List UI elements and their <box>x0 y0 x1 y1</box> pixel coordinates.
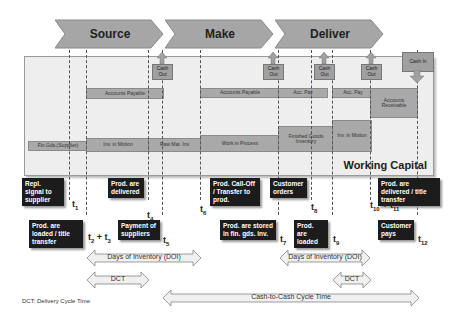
phase-source: Source <box>55 18 165 50</box>
phase-make: Make <box>165 18 275 50</box>
cash-out-box: Cash Out <box>314 64 335 80</box>
cash-out-box: Cash Out <box>361 64 382 80</box>
cash-out-box: Cash Out <box>152 64 173 80</box>
timeline-t1 <box>69 50 70 200</box>
arrow-up-icon <box>319 52 329 64</box>
accounts-receivable-bar: Accounts Receivable <box>370 88 418 118</box>
time-label-t4: t4 <box>147 210 153 222</box>
footnote: DCT: Delivery Cycle Time <box>22 298 90 304</box>
phase-label: Source <box>55 18 165 50</box>
inventory-bar: Fin.Gds.(Supplier) <box>28 141 88 151</box>
arrow-up-icon <box>157 52 167 64</box>
time-label-t9: t9 <box>333 234 339 246</box>
inventory-bar: Work in Process <box>200 135 280 152</box>
time-label-t10-t11: t10 + t11 <box>370 200 399 212</box>
time-label-t1: t1 <box>72 199 78 211</box>
time-label-t6: t6 <box>200 204 206 216</box>
inventory-bar: Inv. in Motion <box>86 138 150 152</box>
inventory-bar: Raw Mat. Inv. <box>148 138 202 152</box>
cash-in-box: Cash In <box>402 52 434 72</box>
event-box: Prod. Call-Off / Transfer to prod. <box>210 178 260 206</box>
time-label-t8: t8 <box>311 202 317 214</box>
event-box: Prod. are loaded <box>294 220 328 248</box>
span-dct-deliver: DCT <box>333 272 371 288</box>
time-label-t7: t7 <box>280 234 286 246</box>
arrow-down-icon <box>410 70 424 83</box>
event-box: Prod. are stored in fin. gds. inv. <box>220 220 276 240</box>
span-dct-source: DCT <box>87 272 149 288</box>
time-label-t2-t3: t2 + t3 <box>88 232 111 244</box>
working-capital-label: Working Capital <box>343 159 427 171</box>
time-label-t12: t12 <box>418 234 428 246</box>
accounts-payable-bar: Acc. Pay <box>332 88 374 98</box>
phase-deliver: Deliver <box>275 18 385 50</box>
timeline-t6 <box>200 50 201 200</box>
event-box: Repl. signal to supplier <box>22 178 64 206</box>
arrow-up-icon <box>366 52 376 64</box>
arrow-up-icon <box>268 52 278 64</box>
time-label-t5: t5 <box>163 235 169 247</box>
inventory-bar: Finished Goods Inventory <box>278 126 334 152</box>
span-cash-to-cash: Cash-to-Cash Cycle Time <box>163 290 419 306</box>
accounts-payable-bar: Accounts Payable <box>200 88 280 98</box>
span-doi-deliver: Days of Inventory (DOI) <box>280 250 370 266</box>
inventory-bar: Inv. in Motion <box>332 120 372 152</box>
timeline-t8 <box>311 50 312 200</box>
phase-label: Make <box>165 18 275 50</box>
timeline-t4 <box>148 50 149 200</box>
span-doi-source: Days of Inventory (DOI) <box>87 250 201 266</box>
event-box: Prod. are delivered <box>108 178 144 198</box>
cash-out-box: Cash Out <box>263 64 284 80</box>
phase-label: Deliver <box>275 18 385 50</box>
accounts-payable-bar: Accounts Payable <box>86 88 164 99</box>
event-box: Customer pays <box>378 220 414 240</box>
timeline-t2 <box>86 50 87 215</box>
accounts-payable-bar: Acc. Pay <box>278 88 328 98</box>
event-box: Prod. are loaded / title transfer <box>29 220 83 248</box>
event-box: Customer orders <box>270 178 307 198</box>
event-box: Payment of suppliers <box>118 220 160 240</box>
